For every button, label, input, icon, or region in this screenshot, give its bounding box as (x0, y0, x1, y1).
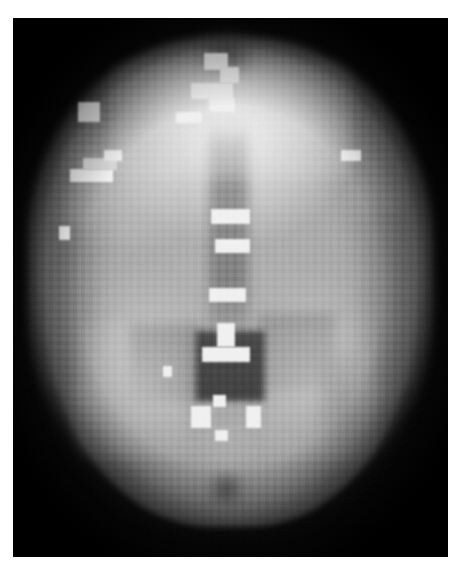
marker-post-left (191, 406, 211, 428)
marker-mid-bar-4 (217, 323, 234, 347)
marker-right-parietal (341, 150, 361, 161)
marker-mid-bar-2 (215, 239, 250, 253)
page-canvas (0, 0, 467, 570)
marker-left-temporal (59, 226, 70, 240)
marker-post-low (215, 430, 228, 441)
marker-mid-bar-1 (211, 209, 250, 224)
brain-scan-image (13, 18, 448, 557)
marker-frontal-midline-3 (191, 83, 232, 99)
marker-post-center (213, 395, 226, 407)
marker-left-caudate (163, 366, 172, 378)
marker-frontal-midline-2 (220, 67, 240, 83)
marker-frontal-midline-4 (209, 98, 235, 112)
marker-left-frontal (78, 102, 100, 122)
marker-mid-bar-3 (209, 288, 246, 302)
marker-frontal-midline-5 (176, 112, 202, 123)
hyperintensity-marker-layer (13, 18, 448, 557)
marker-left-lateral-3 (104, 150, 121, 161)
marker-post-right (246, 406, 261, 428)
marker-mid-bar-5 (202, 347, 250, 362)
marker-left-lateral-1 (70, 169, 114, 182)
